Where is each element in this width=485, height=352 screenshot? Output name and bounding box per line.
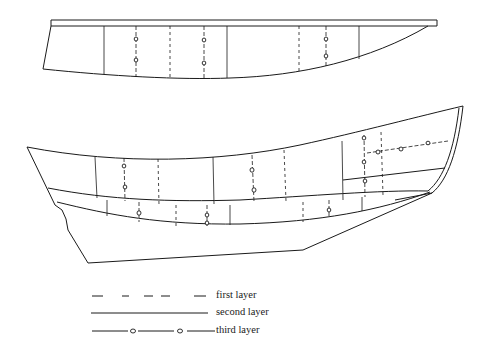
legend-label-second-layer: second layer [216, 307, 269, 318]
fastener-icon [137, 211, 141, 215]
fastener-icon [178, 329, 183, 333]
fastener-icon [327, 208, 331, 212]
fastener-icon [202, 61, 206, 65]
lower-seam-third-layer [364, 135, 365, 197]
fastener-icon [324, 54, 328, 58]
fastener-icon [122, 164, 126, 168]
fastener-icon [399, 147, 403, 151]
upper-keel-curve [43, 26, 428, 79]
fastener-icon [250, 168, 254, 172]
top-rail [51, 20, 437, 26]
fastener-icon [202, 38, 206, 42]
fastener-icon [324, 37, 328, 41]
lower-seam-first-layer [284, 150, 286, 201]
legend [91, 296, 215, 333]
fastener-icon [252, 188, 256, 192]
lower-seam-first-layer [381, 132, 383, 195]
upper-hull-view [43, 20, 437, 79]
legend-swatch-third-layer [92, 329, 215, 333]
upper-transom-edge [43, 26, 51, 69]
fastener-icon [134, 37, 138, 41]
lower-seam-first-layer [158, 159, 159, 205]
keel-line [88, 193, 432, 263]
lower-hull-view [27, 106, 463, 263]
strake-line-forward [343, 168, 445, 180]
sheer-line [27, 106, 463, 159]
lower-frame-solid [95, 157, 97, 198]
fastener-icon [123, 185, 127, 189]
fastener-icon [376, 150, 380, 154]
fastener-icon [205, 221, 209, 225]
lower-seam-third-layer [252, 155, 254, 202]
legend-label-first-layer: first layer [216, 290, 257, 301]
fastener-icon [131, 329, 136, 333]
fastener-icon [205, 213, 209, 217]
stern-profile [27, 147, 88, 263]
strake-line-1 [48, 188, 428, 201]
fastener-icon [362, 160, 366, 164]
fastener-icon [362, 136, 366, 140]
lower-frame-solid [342, 141, 343, 200]
lower-frame-solid [213, 157, 214, 204]
fastener-icon [426, 141, 430, 145]
legend-label-third-layer: third layer [216, 325, 259, 336]
fastener-icon [134, 58, 138, 62]
fastener-icon [363, 179, 367, 183]
